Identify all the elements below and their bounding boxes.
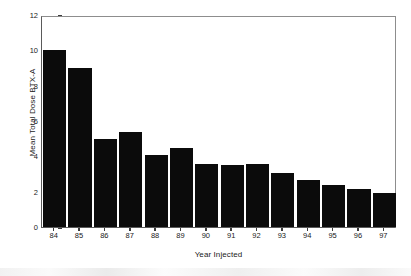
y-tick-label: 6	[20, 118, 38, 126]
x-axis-tick-labels: 8485868788899091929394959697	[41, 231, 396, 245]
bar	[221, 165, 244, 227]
bar	[119, 132, 142, 227]
y-tick-label: 2	[20, 189, 38, 197]
y-tick-label: 10	[20, 47, 38, 55]
x-tick-label: 93	[269, 231, 294, 240]
x-tick-label: 94	[295, 231, 320, 240]
x-tick-label: 88	[142, 231, 167, 240]
x-tick-label: 84	[41, 231, 66, 240]
x-tick-label: 89	[168, 231, 193, 240]
y-tick-label: 4	[20, 153, 38, 161]
bar-series	[42, 17, 395, 227]
x-tick-label: 87	[117, 231, 142, 240]
bar	[94, 139, 117, 227]
x-tick-label: 96	[345, 231, 370, 240]
bar	[43, 50, 66, 227]
y-axis-tick-labels: 024681012	[20, 0, 38, 276]
bar	[195, 164, 218, 227]
x-tick-label: 86	[92, 231, 117, 240]
bar	[246, 164, 269, 227]
bar	[271, 173, 294, 227]
x-tick-label: 92	[244, 231, 269, 240]
bar	[297, 180, 320, 227]
y-tick-label: 8	[20, 83, 38, 91]
x-tick-label: 97	[371, 231, 396, 240]
x-tick-label: 90	[193, 231, 218, 240]
bar	[373, 193, 396, 227]
x-tick-label: 85	[66, 231, 91, 240]
plot-area	[41, 16, 396, 228]
bar	[322, 185, 345, 227]
x-axis-title: Year Injected	[41, 250, 396, 259]
bar	[170, 148, 193, 227]
bar-chart-figure: Mean Total Dose BTX-A 024681012 84858687…	[0, 0, 411, 276]
bar	[68, 68, 91, 227]
bar	[347, 189, 370, 227]
bar	[145, 155, 168, 227]
y-tick-label: 0	[20, 224, 38, 232]
scan-noise-strip	[0, 268, 411, 276]
y-tick-label: 12	[20, 12, 38, 20]
x-tick-label: 95	[320, 231, 345, 240]
x-tick-label: 91	[219, 231, 244, 240]
